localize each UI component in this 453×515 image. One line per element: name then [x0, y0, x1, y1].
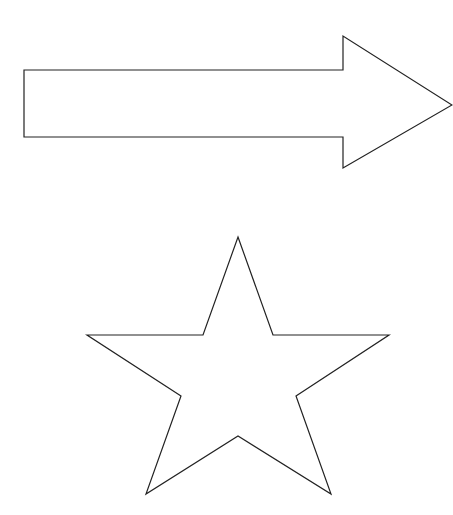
star-shape [87, 237, 389, 494]
right-arrow-shape [24, 36, 452, 168]
canvas [0, 0, 453, 515]
